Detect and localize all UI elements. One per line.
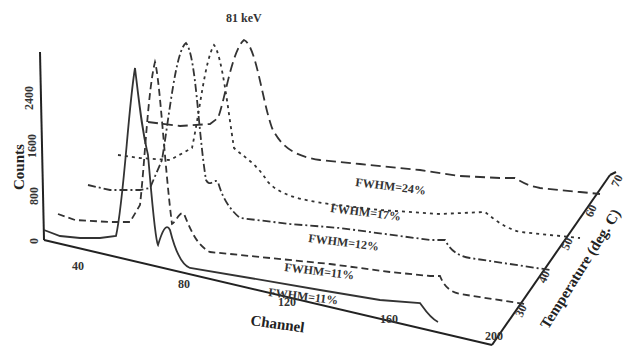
x-tick-40: 40 — [72, 259, 84, 273]
y-tick-0: 0 — [27, 238, 41, 244]
x-tick-200: 200 — [485, 329, 503, 343]
y-axis — [40, 52, 44, 240]
x-tick-80: 80 — [178, 277, 190, 291]
label-fwhm-24: FWHM=24% — [355, 175, 427, 198]
y-tick-1600: 1600 — [25, 134, 39, 158]
x-tick-160: 160 — [380, 312, 398, 326]
z-tick-30: 30 — [512, 302, 530, 319]
y-tick-800: 800 — [27, 187, 41, 205]
curve-fwhm-24 — [148, 40, 600, 194]
curve-fwhm-11-front — [44, 68, 438, 322]
waterfall-chart: 0 800 1600 2400 Counts 40 80 120 160 200… — [0, 0, 642, 355]
y-tick-2400: 2400 — [22, 86, 36, 110]
x-axis-label: Channel — [250, 312, 306, 335]
z-tick-40: 40 — [535, 268, 553, 285]
z-axis-label: Temperature (deg. C) — [537, 206, 624, 332]
y-axis-label: Counts — [11, 144, 27, 190]
label-fwhm-17: FWHM=17% — [330, 201, 402, 224]
peak-annotation: 81 keV — [226, 11, 262, 25]
label-fwhm-12: FWHM=12% — [308, 231, 380, 254]
z-tick-60: 60 — [582, 202, 600, 219]
label-fwhm-11-30c: FWHM=11% — [284, 260, 355, 282]
